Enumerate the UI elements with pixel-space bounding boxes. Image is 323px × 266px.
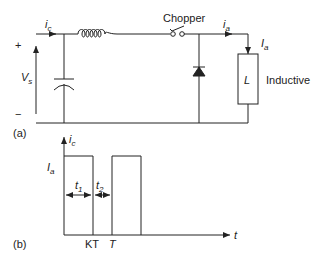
tick-t: T: [109, 238, 117, 250]
plus-sign: +: [15, 39, 21, 51]
ia-label: ia: [223, 18, 230, 33]
minus-sign: −: [15, 108, 21, 120]
diode-icon: [193, 67, 205, 76]
load-L-label: L: [244, 74, 250, 86]
chopper-label: Chopper: [163, 12, 206, 24]
Ia-level-label: Ia: [47, 161, 55, 176]
t2-label: t2: [96, 179, 104, 194]
Ia-label: Ia: [261, 37, 269, 52]
ic-label: ic: [45, 18, 51, 33]
chopper-switch-icon: [170, 26, 184, 36]
chopper-circuit-diagram: + − Vs ic Chopper ia Ia L Inductive (a) …: [0, 0, 323, 266]
inductive-label: Inductive: [266, 74, 310, 86]
t1-label: t1: [75, 179, 83, 194]
vs-label: Vs: [21, 71, 32, 86]
part-b-label: (b): [13, 238, 26, 250]
part-a-label: (a): [13, 127, 26, 139]
inductor-icon: [78, 30, 117, 38]
ic-axis-label: ic: [69, 133, 75, 148]
tick-kt: KT: [85, 238, 99, 250]
waveform-panel: [64, 137, 230, 235]
circuit-panel: [36, 26, 258, 123]
t-axis-label: t: [234, 229, 238, 241]
pulse-2: [112, 156, 141, 235]
